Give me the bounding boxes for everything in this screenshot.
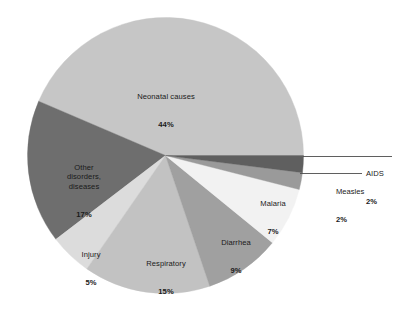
callout-label-aids-name: AIDS	[366, 169, 396, 178]
pie-chart-canvas	[0, 0, 397, 311]
callout-label-aids-pct: 2%	[366, 197, 396, 206]
pie-slice-group	[28, 18, 304, 294]
pie-chart: Neonatal causes 44% Other disorders, dis…	[0, 0, 397, 311]
callout-label-aids: AIDS 2%	[366, 150, 396, 225]
